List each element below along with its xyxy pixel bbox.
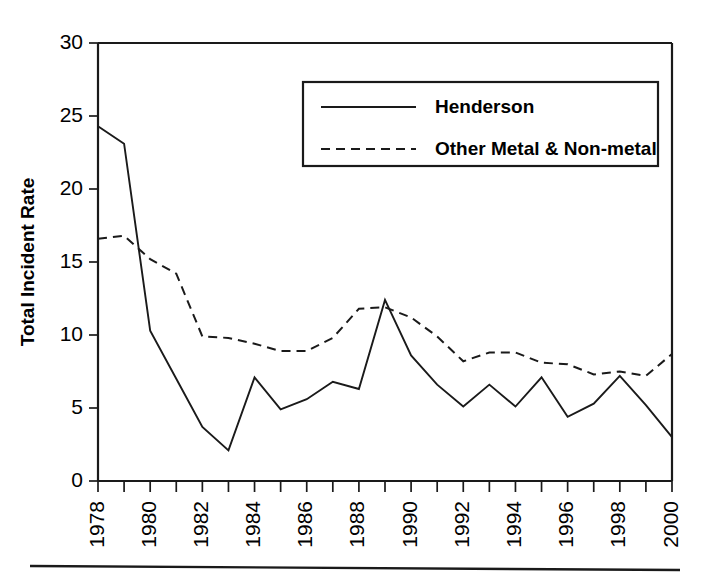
chart-figure: 051015202530 197819801982198419861988199… bbox=[0, 0, 709, 578]
x-tick-label: 1990 bbox=[398, 501, 421, 548]
x-tick-label: 1986 bbox=[293, 501, 316, 548]
x-tick-label: 1988 bbox=[345, 501, 368, 548]
x-tick-label: 1978 bbox=[85, 501, 108, 548]
x-tick-label: 1992 bbox=[450, 501, 473, 548]
x-tick-label: 1982 bbox=[189, 501, 212, 548]
legend-label: Henderson bbox=[435, 96, 534, 117]
y-tick-label: 20 bbox=[60, 176, 83, 199]
legend-label: Other Metal & Non-metal bbox=[435, 138, 657, 159]
x-tick-label: 1984 bbox=[241, 501, 264, 548]
y-tick-label: 30 bbox=[60, 30, 83, 53]
y-tick-label: 5 bbox=[71, 395, 83, 418]
y-tick-label: 0 bbox=[71, 468, 83, 491]
x-tick-label: 1994 bbox=[502, 501, 525, 548]
x-tick-label: 2000 bbox=[659, 501, 682, 548]
y-tick-label: 25 bbox=[60, 103, 83, 126]
x-tick-label: 1980 bbox=[137, 501, 160, 548]
x-tick-label: 1998 bbox=[606, 501, 629, 548]
x-tick-label: 1996 bbox=[554, 501, 577, 548]
y-tick-label: 15 bbox=[60, 249, 83, 272]
chart-legend: HendersonOther Metal & Non-metal bbox=[303, 82, 658, 166]
y-axis-title: Total Incident Rate bbox=[17, 178, 38, 347]
line-chart-svg: 051015202530 197819801982198419861988199… bbox=[0, 0, 709, 578]
y-tick-label: 10 bbox=[60, 322, 83, 345]
